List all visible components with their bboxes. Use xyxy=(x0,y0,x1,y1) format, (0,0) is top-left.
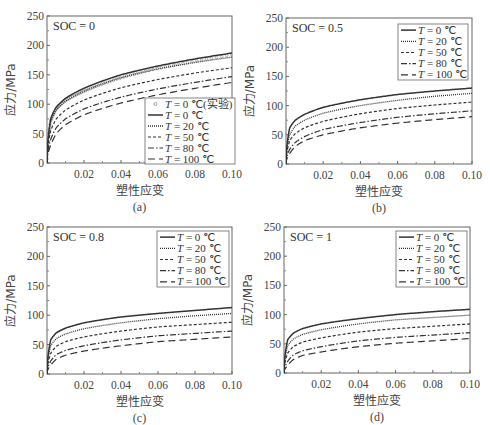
x-tick-label: 0.02 xyxy=(311,378,331,390)
x-tick-label: 0.10 xyxy=(460,378,480,390)
legend: T = 0 ℃T = 20 ℃T = 50 ℃T = 80 ℃T = 100 ℃ xyxy=(396,231,467,288)
legend-label: T = 50 ℃ xyxy=(416,253,460,265)
y-tick-label: 0 xyxy=(275,367,281,379)
y-tick-label: 200 xyxy=(264,250,282,262)
series-line xyxy=(284,315,470,373)
series-line xyxy=(284,333,470,373)
chart-svg: 0501001502002500.020.040.060.080.10塑性应变应… xyxy=(0,0,490,425)
chart-panel-d: 0501001502002500.020.040.060.080.10塑性应变应… xyxy=(0,0,490,425)
legend-label: T = 0 ℃ xyxy=(416,231,454,243)
soc-annotation: SOC = 1 xyxy=(290,230,332,244)
y-tick-label: 50 xyxy=(270,338,282,350)
series-line xyxy=(284,339,470,373)
legend-label: T = 20 ℃ xyxy=(416,242,460,254)
x-tick-label: 0.04 xyxy=(348,378,368,390)
y-axis-title: 应力/MPa xyxy=(240,274,255,326)
curves xyxy=(284,309,470,373)
x-axis-title: 塑性应变 xyxy=(353,393,401,408)
series-line xyxy=(284,309,470,373)
y-tick-label: 150 xyxy=(264,279,282,291)
x-tick-label: 0.08 xyxy=(423,378,443,390)
y-tick-label: 100 xyxy=(264,309,282,321)
y-tick-label: 250 xyxy=(264,221,282,233)
x-tick-label: 0.06 xyxy=(386,378,406,390)
legend-label: T = 80 ℃ xyxy=(416,264,460,276)
legend-label: T = 100 ℃ xyxy=(416,275,465,287)
panel-label: (d) xyxy=(370,410,384,424)
